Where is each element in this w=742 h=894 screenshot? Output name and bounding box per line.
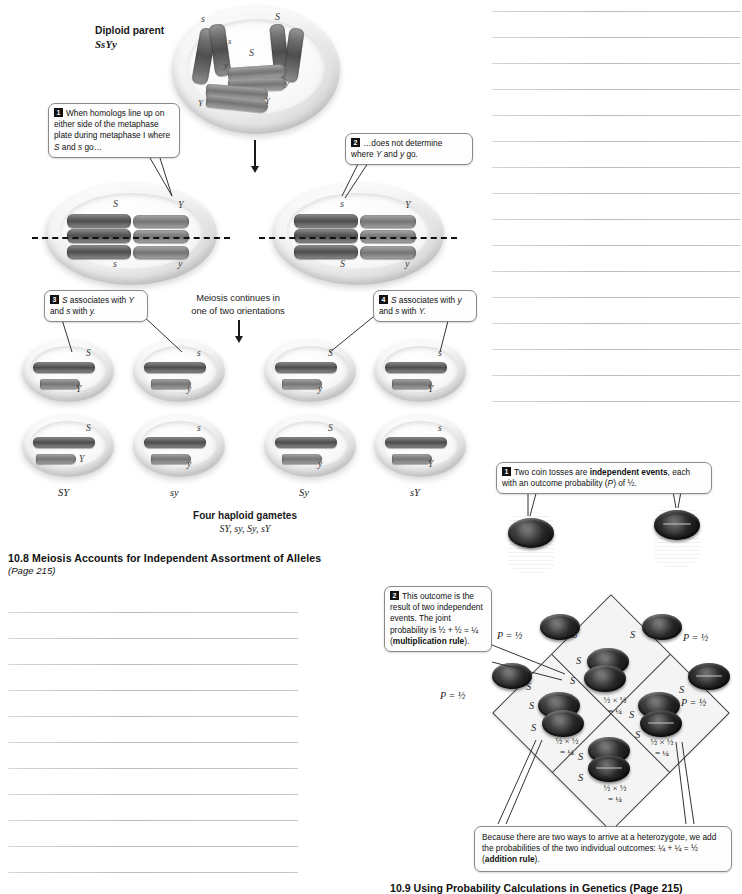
figure-10-8-page-ref: (Page 215) — [8, 565, 321, 576]
punnett-probability-bottom: ½ × ½ = ¼ — [580, 783, 650, 804]
gamete-4-chrom-Y — [392, 379, 432, 389]
gamete-2-chrom-s — [144, 362, 206, 373]
note-line — [492, 63, 740, 64]
metaphase-right-label-y: y — [405, 258, 409, 269]
coin-toss-left — [508, 518, 554, 548]
coin-engraving — [596, 767, 621, 769]
metaphase-left-label-Y: Y — [178, 199, 184, 210]
metaphase-left-chrom-S-b — [67, 229, 131, 243]
callout-4-text: S associates with y and s with Y. — [379, 295, 462, 316]
callout-coin-1-independent-events: 1Two coin tosses are independent events,… — [496, 462, 712, 494]
coin-face — [548, 714, 578, 732]
callout-coin-2-multiplication-rule: 2This outcome is the result of two indep… — [384, 586, 492, 652]
metaphase-left-chrom-S-a — [67, 214, 131, 228]
metaphase-plate-dashed-line-right — [259, 237, 457, 239]
chromosome-label-Y-right: Y — [265, 96, 270, 106]
coin-engraving — [696, 675, 721, 677]
gamete-3-chrom-S — [275, 362, 337, 373]
callout-number-badge: 1 — [54, 108, 63, 117]
callout-2-text: …does not determine where Y and y go. — [351, 138, 442, 159]
figure-10-8-caption: 10.8 Meiosis Accounts for Independent As… — [8, 552, 321, 576]
gamete-4-label-Y: Y — [428, 384, 433, 394]
chromosome-label-S-upper: S — [275, 11, 280, 22]
punnett-coin-bottom-b — [588, 755, 630, 782]
note-line — [492, 271, 740, 272]
allele-label-bottom-inner-b: S — [578, 772, 583, 783]
note-line — [8, 794, 298, 795]
chromosome-label-s-mid: s — [228, 36, 232, 46]
callout-number-badge: 2 — [351, 138, 360, 147]
gamete-1-label-S: S — [86, 348, 91, 358]
note-line — [8, 820, 298, 821]
punnett-probability-expr: ½ × ½ — [580, 783, 650, 794]
callout-addition-rule: Because there are two ways to arrive at … — [474, 826, 732, 872]
probability-label-top-left: P = ½ — [497, 630, 522, 641]
punnett-probability-result: = ¼ — [580, 794, 650, 805]
punnett-coin-top-b — [584, 665, 626, 692]
note-line — [492, 349, 740, 350]
chromosome-label-y-right: y — [285, 78, 289, 88]
gamete-8-chrom-Y — [392, 454, 432, 464]
note-line — [492, 37, 740, 38]
coin-face — [648, 618, 677, 635]
gamete-6-label-y: y — [187, 459, 191, 469]
coin-face — [498, 667, 527, 684]
coin-face — [546, 618, 575, 635]
coin-face — [590, 669, 620, 687]
punnett-probability-left: ½ × ½ = ¼ — [532, 736, 602, 757]
gamete-5-chrom-Y — [36, 454, 76, 464]
metaphase-right-label-Y: Y — [405, 199, 411, 210]
punnett-probability-result: = ¼ — [580, 706, 650, 717]
metaphase-left-label-s: s — [113, 258, 117, 269]
callout-addition-rule-text: Because there are two ways to arrive at … — [482, 832, 716, 864]
punnett-probability-right: ½ × ½ = ¼ — [627, 737, 697, 758]
four-haploid-gametes-summary: Four haploid gametes SY, sy, Sy, sY — [150, 509, 340, 535]
coin-engraving — [648, 722, 673, 724]
gamete-4-label-s: s — [438, 348, 442, 358]
allele-label-left-outer: S — [526, 681, 531, 692]
meiosis-continues-line1: Meiosis continues in — [178, 292, 298, 305]
note-line — [8, 664, 298, 665]
metaphase-right-chrom-s-b — [294, 229, 358, 243]
chromosome-label-Y-left: Y — [198, 98, 203, 108]
diploid-parent-label: Diploid parent SsYy — [95, 25, 164, 50]
probability-label-top-right: P = ½ — [683, 632, 708, 643]
metaphase-left-chrom-Y-a — [133, 215, 189, 228]
note-line — [492, 219, 740, 220]
gamete-genotype-SY: SY — [58, 487, 69, 498]
gamete-5-label-S: S — [86, 423, 91, 433]
note-line — [492, 193, 740, 194]
note-line — [492, 89, 740, 90]
callout-4-S-with-y: 4S associates with y and s with Y. — [373, 290, 477, 322]
callout-2-does-not-determine: 2…does not determine where Y and y go. — [345, 133, 473, 165]
four-haploid-gametes-title: Four haploid gametes — [150, 509, 340, 522]
gamete-6-chrom-s — [144, 437, 206, 448]
allele-label-right-inner-b: S — [635, 729, 640, 740]
note-line — [492, 11, 740, 12]
gamete-7-label-y: y — [318, 459, 322, 469]
chromosome-label-y-left: y — [224, 60, 228, 70]
metaphase-left-label-S: S — [113, 198, 118, 209]
note-line — [492, 323, 740, 324]
gamete-8-chrom-s — [385, 437, 447, 448]
note-line — [8, 612, 298, 613]
gamete-6-label-s: s — [197, 423, 201, 433]
gamete-1-chrom-Y — [40, 379, 80, 389]
gamete-genotype-Sy: Sy — [299, 487, 309, 498]
figure-10-8-title: 10.8 Meiosis Accounts for Independent As… — [8, 552, 321, 564]
gamete-1-chrom-S — [33, 362, 95, 373]
coin-toss-right — [654, 510, 700, 540]
callout-3-S-with-Y: 3S associates with Y and s with y. — [44, 290, 148, 322]
note-line — [8, 716, 298, 717]
gamete-3-label-y: y — [318, 384, 322, 394]
callout-3-text: S associates with Y and s with y. — [50, 295, 134, 316]
gamete-2-label-s: s — [197, 348, 201, 358]
allele-label-inner-top-a: S — [576, 655, 581, 666]
metaphase-right-chrom-s-a — [294, 214, 358, 228]
allele-label-top-right: S — [630, 629, 635, 640]
gamete-1-label-Y: Y — [76, 384, 81, 394]
metaphase-right-chrom-S-a — [294, 245, 358, 259]
gamete-genotype-sY: sY — [410, 487, 420, 498]
note-line — [492, 401, 740, 402]
punnett-probability-result: = ¼ — [627, 748, 697, 759]
